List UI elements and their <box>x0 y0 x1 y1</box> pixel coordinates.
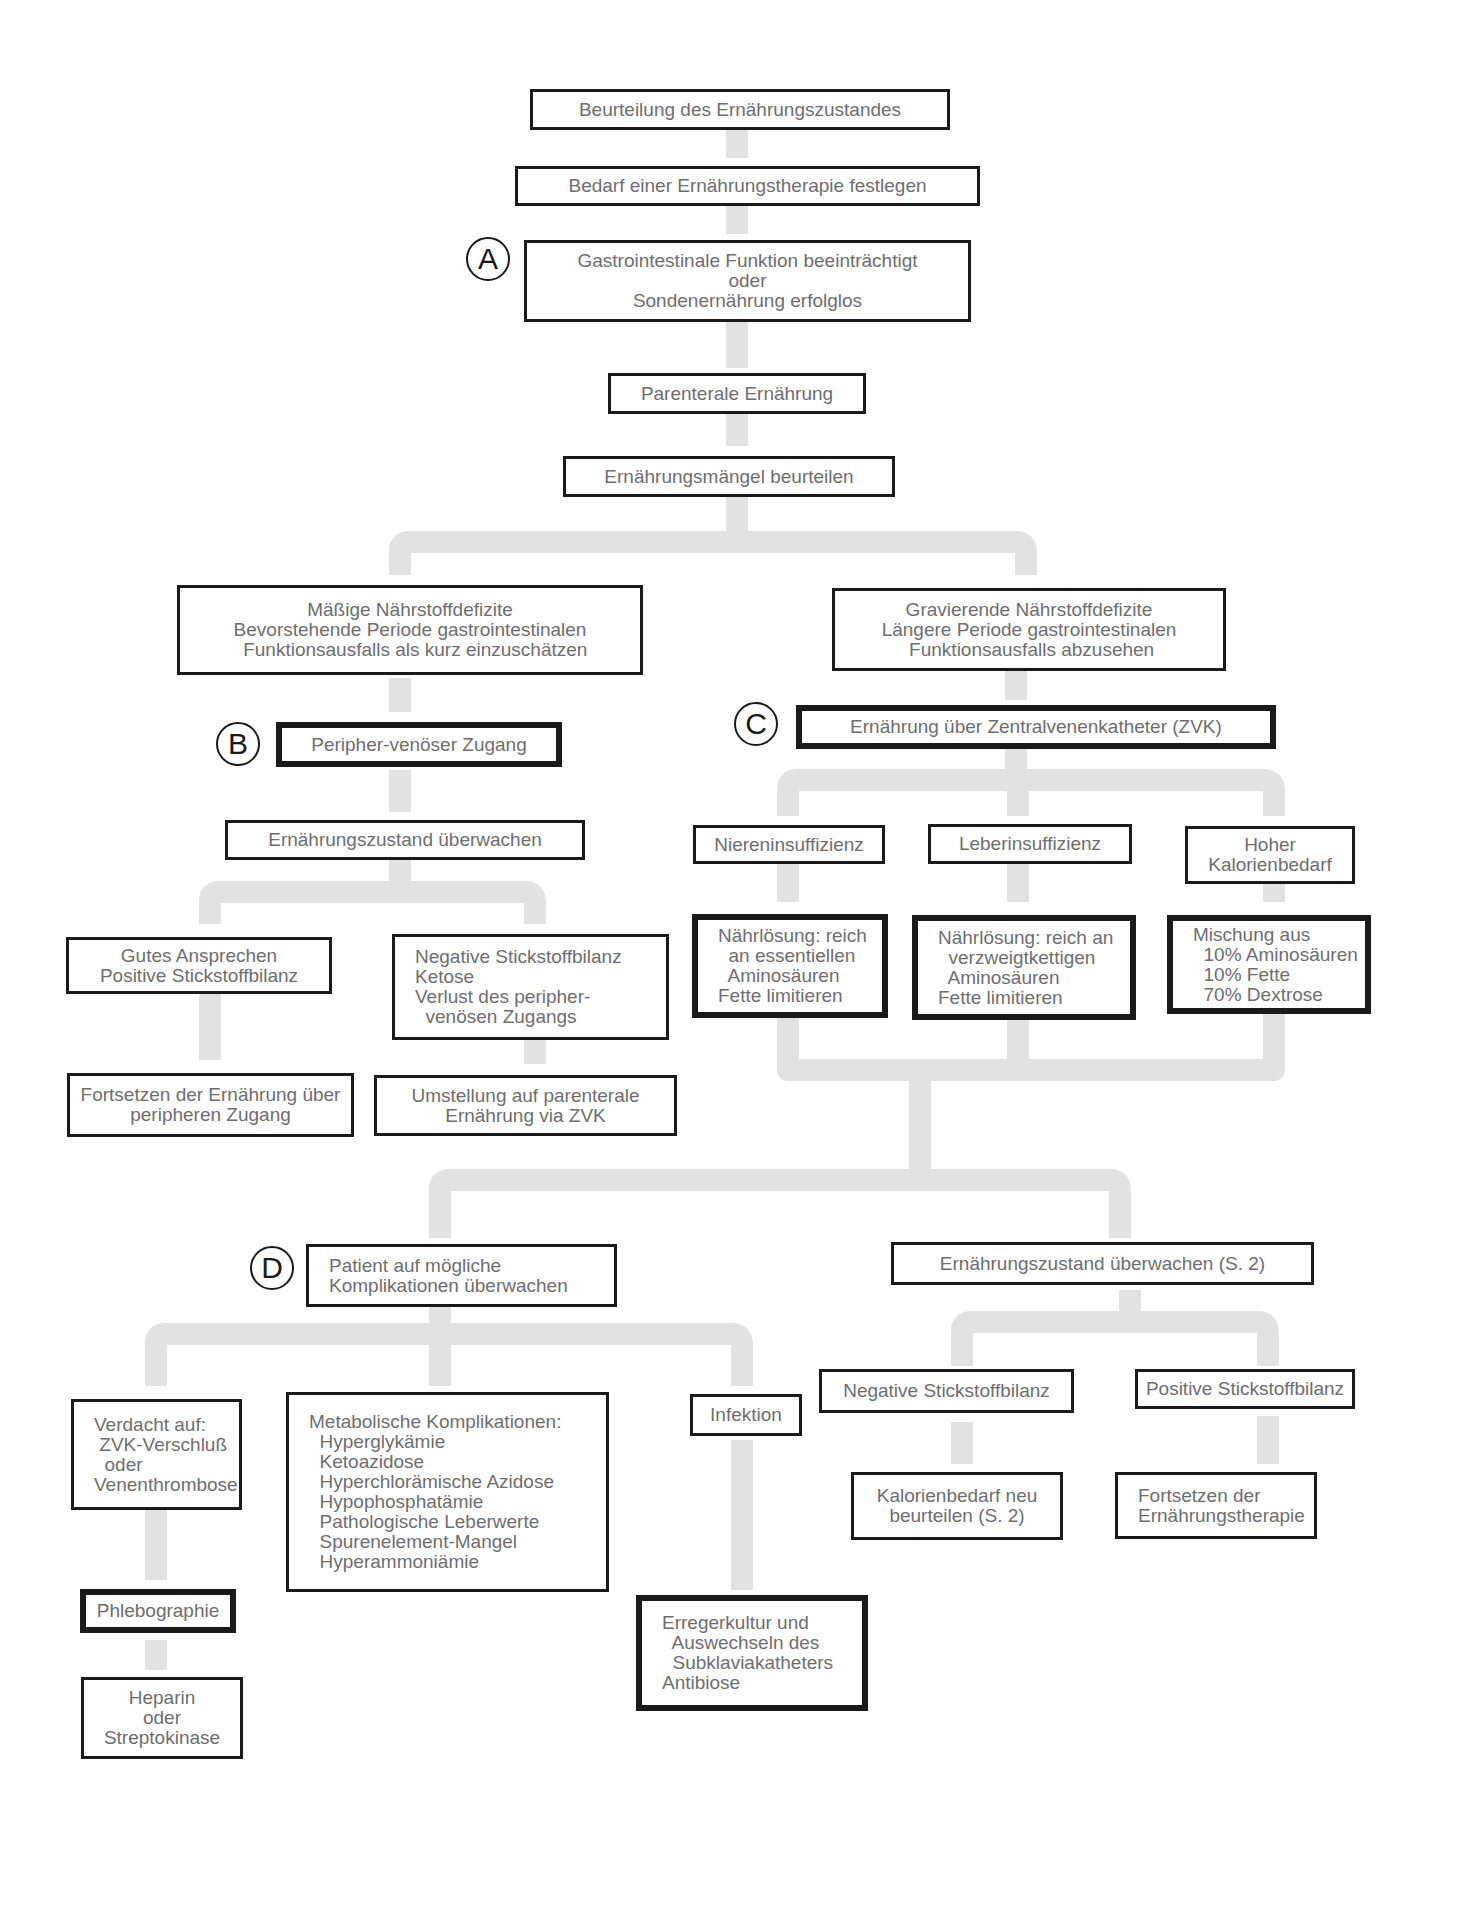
step-badge-a: A <box>466 237 510 281</box>
node-text-line: Kalorienbedarf neu <box>877 1486 1038 1506</box>
node-text-line: Positive Stickstoffbilanz <box>100 966 298 986</box>
node-text-line: oder <box>728 271 766 291</box>
node-culture-antibiosis: Erregerkultur und Auswechseln des Subkla… <box>636 1595 868 1711</box>
step-badge-b: B <box>216 722 260 766</box>
node-text-line: oder <box>143 1708 181 1728</box>
node-text-line: Ernährung über Zentralvenenkatheter (ZVK… <box>850 717 1222 737</box>
node-continue-peripheral: Fortsetzen der Ernährung überperipheren … <box>67 1073 354 1137</box>
node-text-line: oder <box>94 1455 143 1475</box>
node-text-line: Negative Stickstoffbilanz <box>415 947 622 967</box>
node-text-line: Umstellung auf parenterale <box>411 1086 639 1106</box>
node-text-line: Sondenernährung erfolglos <box>633 291 862 311</box>
node-infection: Infektion <box>690 1394 802 1436</box>
node-text-line: Subklaviakatheters <box>662 1653 833 1673</box>
node-reassess-calories: Kalorienbedarf neubeurteilen (S. 2) <box>851 1472 1063 1540</box>
node-text-line: Mäßige Nährstoffdefizite <box>307 600 513 620</box>
node-text-line: Hoher <box>1244 835 1296 855</box>
badge-label: D <box>261 1251 283 1285</box>
node-text-line: Ernährungszustand überwachen (S. 2) <box>940 1254 1265 1274</box>
node-text-line: Verlust des peripher- <box>415 987 590 1007</box>
node-suspected-occlusion: Verdacht auf: ZVK-Verschluß oderVenenthr… <box>71 1399 242 1510</box>
node-text-line: Negative Stickstoffbilanz <box>843 1381 1050 1401</box>
node-text-line: Niereninsuffizienz <box>714 835 864 855</box>
node-text-line: Erregerkultur und <box>662 1613 809 1633</box>
node-text-line: Fette limitieren <box>718 986 843 1006</box>
node-solution-high-calorie: Mischung aus 10% Aminosäuren 10% Fette 7… <box>1167 915 1371 1014</box>
node-text-line: Mischung aus <box>1193 925 1310 945</box>
node-text-line: Ernährung via ZVK <box>445 1106 606 1126</box>
node-continue-therapy: Fortsetzen derErnährungstherapie <box>1115 1472 1317 1539</box>
node-text-line: Pathologische Leberwerte <box>309 1512 539 1532</box>
badge-label: B <box>228 727 248 761</box>
node-text-line: venösen Zugangs <box>415 1007 577 1027</box>
node-text-line: Leberinsuffizienz <box>959 834 1101 854</box>
node-phlebography: Phlebographie <box>80 1589 236 1633</box>
node-text-line: Gastrointestinale Funktion beeinträchtig… <box>577 251 917 271</box>
node-text-line: Fortsetzen der Ernährung über <box>81 1085 341 1105</box>
node-text-line: peripheren Zugang <box>130 1105 291 1125</box>
node-text-line: an essentiellen <box>718 946 855 966</box>
node-text-line: Antibiose <box>662 1673 740 1693</box>
flowchart-canvas: A B C D Beurteilung des Ernährungszustan… <box>0 0 1469 1911</box>
node-text-line: verzweigtkettigen <box>938 948 1095 968</box>
node-text-line: Heparin <box>129 1688 196 1708</box>
node-text-line: Funktionsausfalls als kurz einzuschätzen <box>233 640 588 660</box>
node-text-line: Hyperglykämie <box>309 1432 445 1452</box>
node-text-line: Bedarf einer Ernährungstherapie festlege… <box>568 176 926 196</box>
node-determine-therapy-need: Bedarf einer Ernährungstherapie festlege… <box>515 166 980 206</box>
node-solution-hepatic: Nährlösung: reich an verzweigtkettigen A… <box>912 915 1136 1020</box>
node-text-line: Funktionsausfalls abzusehen <box>904 640 1154 660</box>
node-positive-nitrogen-balance: Positive Stickstoffbilanz <box>1135 1369 1355 1409</box>
node-text-line: 70% Dextrose <box>1193 985 1323 1005</box>
node-monitor-complications: Patient auf möglicheKomplikationen überw… <box>306 1244 617 1307</box>
node-assess-deficits: Ernährungsmängel beurteilen <box>563 456 895 497</box>
node-text-line: Patient auf mögliche <box>329 1256 501 1276</box>
badge-label: A <box>478 242 498 276</box>
node-text-line: Nährlösung: reich <box>718 926 867 946</box>
node-text-line: 10% Fette <box>1193 965 1290 985</box>
node-text-line: Kalorienbedarf <box>1208 855 1332 875</box>
node-metabolic-complications: Metabolische Komplikationen: Hyperglykäm… <box>286 1392 609 1592</box>
node-text-line: Aminosäuren <box>718 966 839 986</box>
node-hepatic-insufficiency: Leberinsuffizienz <box>928 824 1132 864</box>
node-text-line: Metabolische Komplikationen: <box>309 1412 561 1432</box>
node-good-response: Gutes AnsprechenPositive Stickstoffbilan… <box>66 937 332 994</box>
node-text-line: Bevorstehende Periode gastrointestinalen <box>234 620 587 640</box>
node-text-line: Fette limitieren <box>938 988 1063 1008</box>
node-text-line: Venenthrombose <box>94 1475 238 1495</box>
node-gi-impaired: Gastrointestinale Funktion beeinträchtig… <box>524 240 971 322</box>
node-text-line: Streptokinase <box>104 1728 220 1748</box>
step-badge-c: C <box>734 702 778 746</box>
node-text-line: Phlebographie <box>97 1601 220 1621</box>
node-negative-nitrogen-balance: Negative Stickstoffbilanz <box>819 1369 1074 1413</box>
node-renal-insufficiency: Niereninsuffizienz <box>693 825 885 864</box>
node-text-line: Auswechseln des <box>662 1633 819 1653</box>
badge-label: C <box>745 707 767 741</box>
node-text-line: Gravierende Nährstoffdefizite <box>906 600 1153 620</box>
node-severe-deficits: Gravierende NährstoffdefiziteLängere Per… <box>832 588 1226 671</box>
node-text-line: Gutes Ansprechen <box>121 946 277 966</box>
node-switch-to-zvk: Umstellung auf parenteraleErnährung via … <box>374 1075 677 1136</box>
node-text-line: Aminosäuren <box>938 968 1059 988</box>
node-text-line: Längere Periode gastrointestinalen <box>882 620 1177 640</box>
node-text-line: Verdacht auf: <box>94 1415 206 1435</box>
node-monitor-nutrition-s2: Ernährungszustand überwachen (S. 2) <box>891 1242 1314 1285</box>
node-parenteral-nutrition: Parenterale Ernährung <box>608 373 866 414</box>
node-text-line: Komplikationen überwachen <box>329 1276 568 1296</box>
node-text-line: Peripher-venöser Zugang <box>311 735 526 755</box>
node-text-line: Ketoazidose <box>309 1452 424 1472</box>
node-text-line: Hyperammoniämie <box>309 1552 479 1572</box>
node-text-line: Ernährungszustand überwachen <box>268 830 542 850</box>
node-text-line: 10% Aminosäuren <box>1193 945 1358 965</box>
node-peripheral-access: Peripher-venöser Zugang <box>276 722 562 767</box>
node-assess-nutrition: Beurteilung des Ernährungszustandes <box>530 89 950 130</box>
node-text-line: ZVK-Verschluß <box>94 1435 227 1455</box>
node-text-line: Parenterale Ernährung <box>641 384 833 404</box>
node-text-line: Nährlösung: reich an <box>938 928 1113 948</box>
node-text-line: Ernährungsmängel beurteilen <box>604 467 853 487</box>
node-moderate-deficits: Mäßige NährstoffdefiziteBevorstehende Pe… <box>177 585 643 675</box>
node-text-line: Hyperchlorämische Azidose <box>309 1472 554 1492</box>
node-text-line: Infektion <box>710 1405 782 1425</box>
node-text-line: Hypophosphatämie <box>309 1492 483 1512</box>
node-monitor-nutrition: Ernährungszustand überwachen <box>225 820 585 860</box>
